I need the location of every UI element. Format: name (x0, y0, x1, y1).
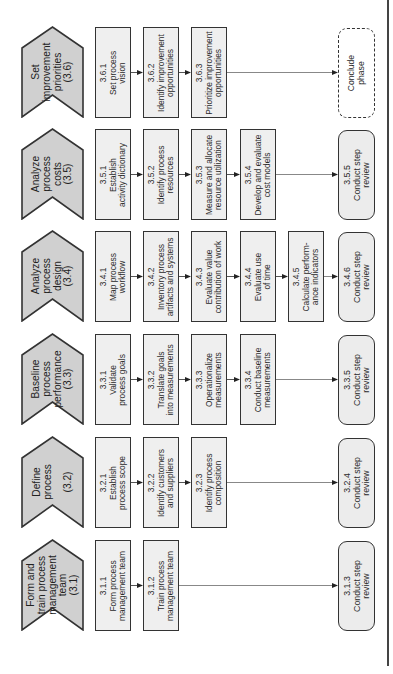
task-box-3-6-3: 3.6.3Prioritize improvementopportunities (191, 27, 227, 118)
phase-label-line: performance (53, 350, 64, 407)
phase-label-line: train process (36, 555, 47, 614)
task-box-3-1-1: 3.1.1Form processmanagement team (95, 540, 131, 631)
phase-label-line: (3.4) (63, 258, 74, 294)
right-border-line (387, 0, 389, 666)
end-label-line: 3.4.6 (342, 251, 352, 303)
step-review-box-3-4-6: 3.4.6Conduct stepreview (338, 232, 375, 322)
task-label-line: opportunities (214, 31, 224, 114)
task-box-3-6-2: 3.6.2Identify improvementopportunities (143, 27, 179, 118)
task-box-3-2-1: 3.2.1Establishprocess scope (95, 437, 131, 528)
phase-label-line: Set (31, 43, 42, 102)
task-label-line: contribution of work (214, 240, 224, 313)
end-label-line: review (361, 560, 371, 612)
task-label-line: vision (118, 50, 128, 94)
task-box-3-4-2: 3.4.2Inventory processartifacts and syst… (143, 231, 179, 322)
task-label-line: of time (263, 252, 273, 300)
task-label-line: cost models (263, 134, 273, 215)
task-label-line: measurements (214, 352, 224, 407)
task-label-line: workflow (118, 253, 128, 301)
end-label-line: 3.3.5 (342, 354, 352, 406)
task-label-line: resources (166, 145, 176, 204)
task-label-line: process goals (118, 354, 128, 406)
task-label-line: opportunities (166, 34, 176, 112)
phase-label-line: Analyze (31, 156, 42, 192)
end-label-line: 3.1.3 (342, 560, 352, 612)
end-label-line: 3.2.4 (342, 457, 352, 509)
task-label-line: artifacts and systems (166, 237, 176, 316)
phase-label: Setimprovementpriorities(3.6) (31, 43, 74, 102)
task-box-3-5-4: 3.5.4Develop and evaluatecost models (240, 129, 276, 220)
phase-label-line: process (42, 156, 53, 192)
task-label-line: ance indicators (311, 242, 321, 311)
phase-label: Baselineprocessperformance(3.3) (31, 350, 74, 407)
end-label-line: review (361, 457, 371, 509)
phase-chevron-3-1: Form andtrain processmanagementteam(3.1) (21, 539, 84, 631)
phase-label-line: costs (53, 156, 64, 192)
phase-label-line: (3.2) (62, 464, 73, 500)
task-label-line: measurements (263, 347, 273, 412)
end-label-line: review (361, 354, 371, 406)
end-label-line: phase (357, 55, 367, 91)
phase-chevron-3-4: Analyzeprocessdesign(3.4) (21, 230, 84, 322)
task-box-3-3-3: 3.3.3Operationalizemeasurements (191, 334, 227, 425)
end-label-line: Conclude (347, 55, 357, 91)
phase-label-line: priorities (53, 43, 64, 102)
task-box-3-4-5: 3.4.5Calculate perform-ance indicators (288, 231, 324, 322)
step-review-box-3-3-5: 3.3.5Conduct stepreview (338, 335, 375, 425)
phase-label-line: (3.5) (63, 156, 74, 192)
phase-label: Defineprocess(3.2) (32, 464, 73, 500)
task-box-3-3-2: 3.3.2Translate goalsinto measurements (143, 334, 179, 425)
phase-label-line: (3.6) (63, 43, 74, 102)
step-review-box-3-5-5: 3.5.5Conduct stepreview (338, 130, 375, 220)
task-box-3-6-1: 3.6.1Set processvision (95, 27, 131, 118)
task-label-line: composition (214, 453, 224, 512)
phase-label-line: improvement (42, 43, 53, 102)
task-box-3-3-1: 3.3.1Validateprocess goals (95, 334, 131, 425)
phase-label-line: process (43, 464, 54, 500)
step-review-box-3-2-4: 3.2.4Conduct stepreview (338, 438, 375, 528)
task-label-line: process scope (118, 456, 128, 510)
phase-label-line: (3.3) (63, 350, 74, 407)
phase-chevron-3-6: Setimprovementpriorities(3.6) (21, 26, 84, 118)
phase-label-line: design (53, 258, 64, 294)
end-label-line: review (361, 149, 371, 201)
task-box-3-3-4: 3.3.4Conduct baselinemeasurements (240, 334, 276, 425)
task-label-line: activity dictionary (118, 143, 128, 207)
task-label-line: and suppliers (166, 449, 176, 517)
task-label-line: management team (166, 551, 176, 621)
phase-chevron-3-2: Defineprocess(3.2) (21, 436, 84, 528)
task-box-3-4-4: 3.4.4Evaluate useof time (240, 231, 276, 322)
phase-label-line: process (42, 350, 53, 407)
phase-label-line: team (58, 555, 69, 614)
task-box-3-5-2: 3.5.2Identify processresources (143, 129, 179, 220)
task-box-3-5-3: 3.5.3Measure and allocateresource utiliz… (191, 129, 227, 220)
task-box-3-4-1: 3.4.1Map processworkflow (95, 231, 131, 322)
task-label-line: into measurements (166, 344, 176, 415)
task-label-line: management team (118, 551, 128, 621)
phase-label-line: Define (32, 464, 43, 500)
task-label-line: resource utilization (214, 134, 224, 214)
step-review-box-3-1-3: 3.1.3Conduct stepreview (338, 541, 375, 631)
phase-label-line: process (42, 258, 53, 294)
process-phase-diagram: Setimprovementpriorities(3.6)3.6.1Set pr… (0, 0, 393, 674)
end-label-line: 3.5.5 (342, 149, 352, 201)
task-box-3-4-3: 3.4.3Evaluate valuecontribution of work (191, 231, 227, 322)
end-label-line: review (361, 251, 371, 303)
phase-chevron-3-3: Baselineprocessperformance(3.3) (21, 333, 84, 425)
task-box-3-1-2: 3.1.2Train processmanagement team (143, 540, 179, 631)
phase-label: Form andtrain processmanagementteam(3.1) (26, 555, 80, 614)
phase-label-line: Analyze (31, 258, 42, 294)
phase-chevron-3-5: Analyzeprocesscosts(3.5) (21, 128, 84, 220)
phase-label-line (53, 464, 62, 500)
task-box-3-2-2: 3.2.2Identify customersand suppliers (143, 437, 179, 528)
task-box-3-2-3: 3.2.3Identify processcomposition (191, 437, 227, 528)
phase-label: Analyzeprocessdesign(3.4) (31, 258, 74, 294)
phase-label: Analyzeprocesscosts(3.5) (31, 156, 74, 192)
phase-label-line: (3.1) (69, 555, 80, 614)
phase-label-line: Form and (26, 555, 37, 614)
conclude-phase-box: Concludephase (338, 28, 375, 118)
phase-label-line: management (47, 555, 58, 614)
phase-label-line: Baseline (31, 350, 42, 407)
task-box-3-5-1: 3.5.1Establishactivity dictionary (95, 129, 131, 220)
